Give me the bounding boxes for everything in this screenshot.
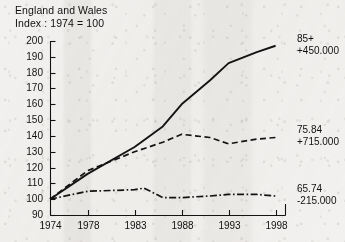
series-line-85-: [50, 46, 276, 199]
y-axis-tick-label: 110: [17, 177, 43, 188]
series-name: 75.84: [297, 124, 339, 136]
x-axis-tick-label: 1978: [69, 220, 109, 231]
y-axis-tick-label: 130: [17, 146, 43, 157]
series-name: 65.74: [297, 183, 336, 195]
y-axis-tick-label: 120: [17, 162, 43, 173]
line-chart-svg: [0, 0, 345, 242]
series-line-65-74: [50, 188, 276, 199]
x-axis-tick-label: 1988: [163, 220, 203, 231]
series-name: 85+: [297, 33, 339, 45]
y-axis-tick-label: 90: [17, 209, 43, 220]
y-axis-tick-label: 150: [17, 114, 43, 125]
series-change-value: +450.000: [297, 45, 339, 57]
series-change-value: +715.000: [297, 136, 339, 148]
y-axis-tick-label: 100: [17, 193, 43, 204]
series-label-65-74: 65.74-215.000: [297, 183, 336, 207]
chart-plot-area: 9010011012013014015016017018019020019741…: [0, 0, 345, 242]
x-axis-tick-label: 1993: [210, 220, 250, 231]
y-axis-tick-label: 190: [17, 51, 43, 62]
y-axis-tick-label: 140: [17, 130, 43, 141]
chart-axes: [51, 41, 286, 216]
x-axis-tick-label: 1974: [31, 220, 71, 231]
y-axis-tick-label: 170: [17, 82, 43, 93]
series-label-85-: 85++450.000: [297, 33, 339, 57]
y-axis-tick-label: 200: [17, 35, 43, 46]
series-line-75-84: [50, 134, 276, 199]
series-label-75-84: 75.84+715.000: [297, 124, 339, 148]
series-change-value: -215.000: [297, 195, 336, 207]
x-axis-tick-label: 1983: [116, 220, 156, 231]
y-axis-ticks: [51, 42, 56, 216]
y-axis-tick-label: 180: [17, 67, 43, 78]
y-axis-tick-label: 160: [17, 98, 43, 109]
x-axis-ticks: [51, 210, 277, 216]
x-axis-tick-label: 1998: [257, 220, 297, 231]
